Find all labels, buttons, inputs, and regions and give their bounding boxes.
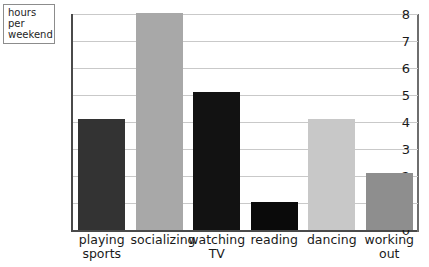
x-axis-category-label: socializing [131,233,189,247]
plot-area: 012345678 [71,14,419,231]
x-axis-category-label: playing sports [73,233,131,261]
bar [366,173,413,230]
bar [251,202,298,230]
bar-chart: hours per weekend 012345678 playing spor… [0,0,429,267]
bar [136,13,183,230]
bar-slot [136,14,183,230]
y-axis-unit-label: hours per weekend [3,4,55,44]
x-axis-category-label: watching TV [188,233,246,261]
bar [193,92,240,230]
bar-slot [251,14,298,230]
bar [308,119,355,230]
bar-slot [78,14,125,230]
x-axis-category-label: dancing [303,233,361,247]
x-axis-category-label: working out [361,233,419,261]
bar-slot [308,14,355,230]
bar-slot [193,14,240,230]
bar [78,119,125,230]
bar-series [73,14,418,230]
bar-slot [366,14,413,230]
x-axis-category-label: reading [246,233,304,247]
